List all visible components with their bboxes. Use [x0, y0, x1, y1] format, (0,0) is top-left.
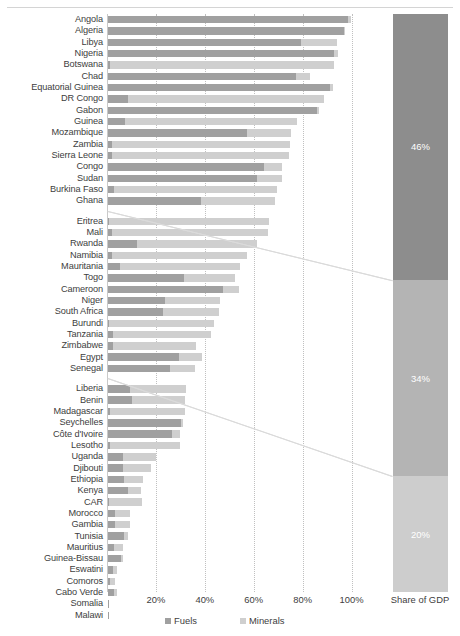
table-row: Botswana	[0, 59, 460, 70]
bar-segment-fuels	[108, 95, 128, 102]
table-row: Algeria	[0, 25, 460, 36]
stacked-bar	[108, 218, 269, 225]
table-row: Mauritius	[0, 542, 460, 553]
country-label: Mauritius	[0, 543, 107, 552]
table-row: Senegal	[0, 363, 460, 374]
stacked-bar	[108, 430, 180, 437]
bar-segment-minerals	[201, 197, 276, 204]
country-label: Equatorial Guinea	[0, 83, 107, 92]
country-label: Lesotho	[0, 441, 107, 450]
stacked-bar	[108, 419, 183, 426]
x-tick-label: 100%	[340, 594, 364, 605]
table-row: Burkina Faso	[0, 184, 460, 195]
country-label: Uganda	[0, 452, 107, 461]
country-label: Ethiopia	[0, 475, 107, 484]
table-row: DR Congo	[0, 93, 460, 104]
country-label: South Africa	[0, 307, 107, 316]
table-row: CAR	[0, 496, 460, 507]
bar-segment-minerals	[110, 442, 180, 449]
stacked-bar	[108, 510, 130, 517]
share-of-gdp-stacked-bar: 46%34%20%	[393, 14, 448, 592]
table-row: Guinea	[0, 116, 460, 127]
stacked-bar	[108, 408, 185, 415]
bar-segment-minerals	[247, 129, 291, 136]
stacked-bar	[108, 544, 123, 551]
chart-container: AngolaAlgeriaLibyaNigeriaBotswanaChadEqu…	[0, 0, 460, 636]
table-row: Ghana	[0, 195, 460, 206]
table-row: Liberia	[0, 383, 460, 394]
country-label: Botswana	[0, 60, 107, 69]
stacked-bar	[108, 27, 345, 34]
bar-segment-fuels	[108, 118, 125, 125]
table-row: Libya	[0, 37, 460, 48]
stacked-bar	[108, 163, 282, 170]
table-row: Angola	[0, 14, 460, 25]
legend-swatch-icon	[165, 618, 171, 624]
table-row: Congo	[0, 161, 460, 172]
stacked-bar	[108, 274, 235, 281]
legend-item-minerals[interactable]: Minerals	[240, 615, 284, 626]
stacked-bar	[108, 141, 290, 148]
table-row: Comoros	[0, 576, 460, 587]
share-of-gdp-axis-label: Share of GDP	[391, 594, 449, 605]
bar-segment-minerals	[348, 16, 352, 23]
stacked-bar	[108, 50, 338, 57]
stack-segment-46: 46%	[393, 14, 448, 280]
bar-segment-minerals	[334, 50, 338, 57]
bar-segment-minerals	[114, 544, 123, 551]
country-label: Namibia	[0, 251, 107, 260]
country-label: Morocco	[0, 509, 107, 518]
country-label: Sudan	[0, 174, 107, 183]
stacked-bar	[108, 308, 219, 315]
bar-segment-fuels	[108, 240, 137, 247]
country-label: Nigeria	[0, 49, 107, 58]
bar-segment-minerals	[113, 331, 211, 338]
x-tick-label: 40%	[195, 594, 214, 605]
table-row: South Africa	[0, 306, 460, 317]
country-label: Côte d'Ivoire	[0, 430, 107, 439]
stacked-bar	[108, 118, 297, 125]
bar-segment-minerals	[301, 39, 336, 46]
country-label: Tunisia	[0, 532, 107, 541]
table-row: Nigeria	[0, 48, 460, 59]
legend-item-fuels[interactable]: Fuels	[165, 615, 197, 626]
bar-segment-fuels	[108, 175, 257, 182]
legend-label: Minerals	[249, 615, 284, 626]
stacked-bar	[108, 342, 196, 349]
table-row: Benin	[0, 395, 460, 406]
table-row: Sierra Leone	[0, 150, 460, 161]
country-label: Sierra Leone	[0, 151, 107, 160]
x-tick-label: 60%	[244, 594, 263, 605]
table-row: Eritrea	[0, 216, 460, 227]
stacked-bar	[108, 39, 337, 46]
bar-segment-fuels	[108, 163, 264, 170]
country-label: Libya	[0, 38, 107, 47]
table-row: Equatorial Guinea	[0, 82, 460, 93]
table-row: Zimbabwe	[0, 340, 460, 351]
bar-segment-fuels	[108, 39, 301, 46]
legend-label: Fuels	[174, 615, 197, 626]
x-tick-label: 80%	[293, 594, 312, 605]
country-label: Ghana	[0, 196, 107, 205]
bar-segment-minerals	[123, 453, 156, 460]
table-row: Uganda	[0, 451, 460, 462]
country-label: Seychelles	[0, 418, 107, 427]
stacked-bar	[108, 578, 115, 585]
bar-segment-minerals	[165, 297, 220, 304]
bar-segment-fuels	[108, 464, 123, 471]
table-row: Chad	[0, 71, 460, 82]
country-label: Eswatini	[0, 565, 107, 574]
bar-segment-minerals	[223, 286, 239, 293]
table-row: Tanzania	[0, 329, 460, 340]
country-label: Burkina Faso	[0, 185, 107, 194]
bar-segment-minerals	[113, 342, 196, 349]
legend-swatch-icon	[240, 618, 246, 624]
table-row: Eswatini	[0, 564, 460, 575]
stack-segment-20: 20%	[393, 476, 448, 592]
country-label: Egypt	[0, 353, 107, 362]
bar-segment-fuels	[108, 521, 115, 528]
bar-segment-fuels	[108, 274, 184, 281]
bar-segment-minerals	[128, 487, 141, 494]
stack-segment-34: 34%	[393, 280, 448, 477]
country-label: Mozambique	[0, 128, 107, 137]
